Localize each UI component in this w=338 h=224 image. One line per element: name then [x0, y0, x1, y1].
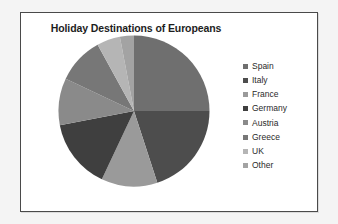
- chart-frame: Holiday Destinations of Europeans SpainI…: [20, 12, 318, 212]
- legend-item-uk[interactable]: UK: [243, 144, 317, 158]
- pie-chart: [58, 35, 210, 187]
- legend-item-label: UK: [252, 147, 264, 156]
- legend-item-italy[interactable]: Italy: [243, 73, 317, 87]
- legend-swatch-icon: [243, 135, 248, 140]
- legend-swatch-icon: [243, 78, 248, 83]
- legend-item-label: Greece: [252, 133, 280, 142]
- pie-slice[interactable]: [134, 36, 210, 112]
- chart-title: Holiday Destinations of Europeans: [21, 22, 251, 34]
- page-background: Holiday Destinations of Europeans SpainI…: [0, 0, 338, 224]
- legend-item-france[interactable]: France: [243, 87, 317, 101]
- legend-swatch-icon: [243, 120, 248, 125]
- legend-item-greece[interactable]: Greece: [243, 130, 317, 144]
- legend-item-label: Austria: [252, 119, 278, 128]
- legend-item-label: Other: [252, 161, 273, 170]
- legend-item-other[interactable]: Other: [243, 158, 317, 172]
- pie-slice-group: [59, 36, 210, 187]
- legend-swatch-icon: [243, 92, 248, 97]
- legend-item-label: Spain: [252, 62, 274, 71]
- legend-item-austria[interactable]: Austria: [243, 116, 317, 130]
- legend-swatch-icon: [243, 64, 248, 69]
- legend-item-label: France: [252, 90, 278, 99]
- legend-swatch-icon: [243, 163, 248, 168]
- pie-chart-svg: [58, 35, 210, 187]
- legend-item-spain[interactable]: Spain: [243, 59, 317, 73]
- legend-item-label: Germany: [252, 104, 287, 113]
- chart-legend: SpainItalyFranceGermanyAustriaGreeceUKOt…: [243, 59, 317, 173]
- legend-item-germany[interactable]: Germany: [243, 102, 317, 116]
- legend-swatch-icon: [243, 106, 248, 111]
- legend-item-label: Italy: [252, 76, 268, 85]
- legend-swatch-icon: [243, 149, 248, 154]
